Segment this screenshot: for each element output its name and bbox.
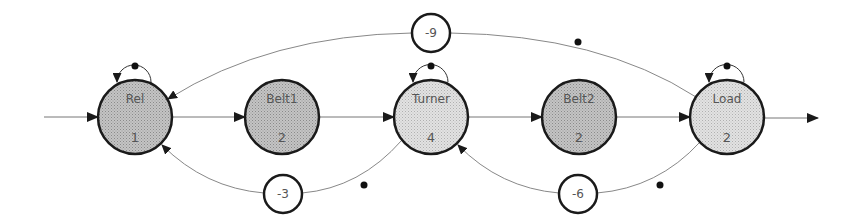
flow-diagram: -9 -3 -6 Rel 1 Belt1 2 bbox=[0, 0, 853, 224]
token-dot bbox=[575, 39, 582, 46]
weight-node-bottom-left[interactable]: -3 bbox=[264, 175, 302, 213]
node-load[interactable]: Load 2 bbox=[690, 80, 764, 154]
diagram-canvas: -9 -3 -6 Rel 1 Belt1 2 bbox=[0, 0, 853, 224]
token-dot bbox=[657, 182, 664, 189]
token-dot bbox=[361, 182, 368, 189]
node-label: Turner bbox=[411, 92, 450, 106]
node-rel[interactable]: Rel 1 bbox=[98, 80, 172, 154]
token-dot bbox=[428, 63, 435, 70]
node-label: Belt1 bbox=[266, 92, 297, 106]
node-value: 2 bbox=[278, 130, 286, 145]
weight-label: -9 bbox=[425, 26, 437, 40]
node-value: 4 bbox=[427, 130, 435, 145]
weight-label: -3 bbox=[277, 187, 289, 201]
edge-load-weight-6 bbox=[597, 142, 700, 193]
weight-node-bottom-right[interactable]: -6 bbox=[559, 175, 597, 213]
node-belt2[interactable]: Belt2 2 bbox=[542, 80, 616, 154]
token-dot bbox=[724, 63, 731, 70]
node-label: Belt2 bbox=[563, 92, 594, 106]
edge-weight-6-turner bbox=[458, 145, 559, 193]
node-value: 2 bbox=[575, 130, 583, 145]
node-value: 2 bbox=[723, 130, 731, 145]
node-turner[interactable]: Turner 4 bbox=[394, 80, 468, 154]
node-belt1[interactable]: Belt1 2 bbox=[245, 80, 319, 154]
node-label: Load bbox=[713, 92, 742, 106]
node-value: 1 bbox=[131, 130, 139, 145]
weight-node-top[interactable]: -9 bbox=[412, 14, 450, 52]
edge-weight-3-rel bbox=[162, 145, 264, 193]
edge-turner-weight-3 bbox=[302, 140, 402, 193]
weight-label: -6 bbox=[572, 187, 584, 201]
token-dot bbox=[132, 63, 139, 70]
node-label: Rel bbox=[126, 92, 145, 106]
